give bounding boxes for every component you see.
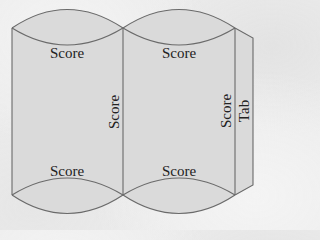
middle-vertical-score-label: Score [106,95,122,129]
bottom-left-score-label: Score [50,163,84,179]
tab-label: Tab [236,100,252,122]
top-right-score-label: Score [162,45,196,61]
box-net-diagram: Score Score Score Score Tab Score Score [0,0,271,230]
bottom-right-score-label: Score [162,163,196,179]
panels [12,10,253,214]
right-vertical-score-label: Score [218,94,234,128]
top-left-score-label: Score [50,45,84,61]
